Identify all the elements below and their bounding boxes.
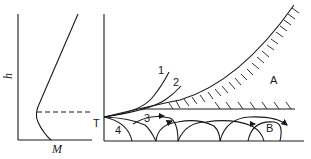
region-label-a: A <box>270 74 278 86</box>
diagram-canvas: h M <box>0 0 311 159</box>
ray-2 <box>104 86 181 117</box>
ray-label-2: 2 <box>173 76 179 88</box>
ray-label-1: 1 <box>158 64 164 76</box>
ray-label-3: 3 <box>144 112 150 124</box>
ray-label-4: 4 <box>115 124 121 136</box>
level-label-t: T <box>93 117 100 129</box>
right-panel <box>104 5 304 141</box>
hatch-marks-line <box>215 102 291 109</box>
region-label-b: B <box>266 122 273 134</box>
m-profile-curve <box>36 14 78 140</box>
left-panel <box>18 14 92 140</box>
hatch-marks-curve <box>169 8 299 109</box>
h-axis-label: h <box>1 73 15 79</box>
hatched-boundary-curve <box>104 5 294 117</box>
diagram: h M <box>0 0 311 159</box>
m-axis-label: M <box>51 142 63 156</box>
